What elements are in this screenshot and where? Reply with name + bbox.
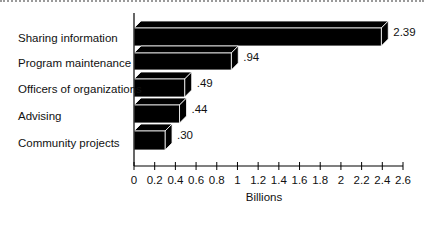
x-axis-title: Billions: [246, 191, 282, 203]
category-label-0: Sharing information: [18, 32, 118, 44]
x-tick-label-6: 1.2: [250, 174, 266, 186]
bar-top-face: [134, 98, 187, 105]
value-label-3: .44: [192, 103, 208, 115]
x-tick-label-2: 0.4: [167, 174, 183, 186]
x-tick-label-0: 0: [131, 174, 137, 186]
value-label-1: .94: [243, 51, 259, 63]
category-label-2: Officers of organizations: [18, 83, 142, 95]
x-tick-label-5: 1: [234, 174, 240, 186]
bar-top-face: [134, 46, 238, 53]
value-label-4: .30: [177, 129, 193, 141]
category-label-3: Advising: [18, 110, 61, 122]
x-tick-label-13: 2.6: [395, 174, 411, 186]
x-tick-label-12: 2.4: [374, 174, 390, 186]
bar-front-face: [134, 105, 180, 123]
bar-top-face: [134, 21, 388, 28]
value-label-2: .49: [197, 77, 213, 89]
x-tick-label-1: 0.2: [147, 174, 163, 186]
x-tick-label-11: 2.2: [354, 174, 370, 186]
bar-front-face: [134, 28, 381, 46]
bar-front-face: [134, 131, 165, 150]
category-label-4: Community projects: [18, 137, 120, 149]
x-tick-label-4: 0.8: [209, 174, 225, 186]
bar-front-face: [134, 53, 231, 70]
x-tick-label-8: 1.6: [292, 174, 308, 186]
value-label-0: 2.39: [393, 26, 415, 38]
x-tick-label-10: 2: [338, 174, 344, 186]
bar-top-face: [134, 72, 192, 79]
x-tick-label-9: 1.8: [312, 174, 328, 186]
x-tick-label-7: 1.4: [271, 174, 287, 186]
category-label-1: Program maintenance: [18, 57, 131, 69]
x-tick-label-3: 0.6: [188, 174, 204, 186]
